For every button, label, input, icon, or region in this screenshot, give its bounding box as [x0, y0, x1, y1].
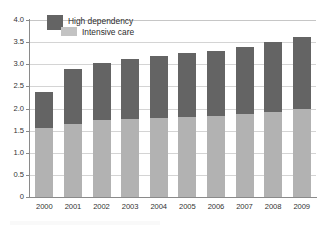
bar-group[interactable] — [264, 20, 282, 197]
bar-segment-high-dependency[interactable] — [293, 37, 311, 109]
page-artifact — [10, 221, 160, 225]
bar-segment-intensive-care[interactable] — [121, 119, 139, 197]
x-axis-label: 2000 — [30, 202, 59, 211]
bar-segment-intensive-care[interactable] — [35, 128, 53, 197]
x-axis-label: 2004 — [144, 202, 173, 211]
x-axis-label: 2007 — [230, 202, 259, 211]
bar-segment-intensive-care[interactable] — [64, 124, 82, 197]
bar-segment-high-dependency[interactable] — [64, 69, 82, 124]
bar-segment-high-dependency[interactable] — [93, 63, 111, 121]
chart-legend: High dependency Intensive care — [47, 16, 61, 38]
x-axis-label: 2005 — [173, 202, 202, 211]
x-axis-label: 2001 — [59, 202, 88, 211]
y-axis-tick-label: 0.5 — [13, 170, 24, 179]
bar-segment-high-dependency[interactable] — [236, 47, 254, 114]
bar-group[interactable] — [35, 20, 53, 197]
y-axis-tick-label: 2.5 — [13, 81, 24, 90]
bar-segment-high-dependency[interactable] — [207, 51, 225, 116]
bar-group[interactable] — [293, 20, 311, 197]
y-axis-tick-label: 0 — [20, 192, 24, 201]
bar-group[interactable] — [236, 20, 254, 197]
y-axis-tick-label: 3.5 — [13, 37, 24, 46]
bar-segment-high-dependency[interactable] — [35, 92, 53, 128]
stacked-bar-chart: 00.51.01.52.02.53.03.54.0 20002001200220… — [0, 0, 322, 229]
bar-segment-high-dependency[interactable] — [121, 59, 139, 119]
tick-mark — [26, 197, 30, 198]
bar-group[interactable] — [93, 20, 111, 197]
bar-segment-intensive-care[interactable] — [178, 117, 196, 197]
bar-segment-intensive-care[interactable] — [293, 109, 311, 197]
bar-group[interactable] — [121, 20, 139, 197]
bar-segment-intensive-care[interactable] — [236, 114, 254, 197]
x-axis-label: 2002 — [87, 202, 116, 211]
x-axis-line — [29, 197, 317, 198]
bar-group[interactable] — [178, 20, 196, 197]
legend-swatch-icon-intensive-care — [61, 27, 77, 36]
bar-segment-intensive-care[interactable] — [150, 118, 168, 197]
bar-segment-high-dependency[interactable] — [178, 53, 196, 117]
y-axis-tick-label: 4.0 — [13, 15, 24, 24]
bar-group[interactable] — [150, 20, 168, 197]
y-axis-tick-label: 2.0 — [13, 104, 24, 113]
plot-area: 00.51.01.52.02.53.03.54.0 — [30, 20, 316, 197]
x-axis-labels: 2000200120022003200420052006200720082009 — [30, 199, 316, 215]
bars-layer — [30, 20, 316, 197]
y-axis-tick-label: 1.5 — [13, 126, 24, 135]
bar-segment-high-dependency[interactable] — [150, 56, 168, 118]
legend-label-high-dependency: High dependency — [68, 16, 133, 27]
x-axis-label: 2008 — [259, 202, 288, 211]
bar-segment-intensive-care[interactable] — [93, 120, 111, 197]
x-axis-label: 2009 — [287, 202, 316, 211]
legend-label-intensive-care: Intensive care — [82, 27, 134, 38]
bar-segment-high-dependency[interactable] — [264, 42, 282, 111]
x-axis-label: 2006 — [202, 202, 231, 211]
x-axis-label: 2003 — [116, 202, 145, 211]
bar-group[interactable] — [64, 20, 82, 197]
y-axis-tick-label: 3.0 — [13, 59, 24, 68]
y-axis-tick-label: 1.0 — [13, 148, 24, 157]
bar-segment-intensive-care[interactable] — [264, 112, 282, 197]
bar-segment-intensive-care[interactable] — [207, 116, 225, 197]
legend-item-high-dependency: High dependency — [47, 16, 61, 27]
bar-group[interactable] — [207, 20, 225, 197]
